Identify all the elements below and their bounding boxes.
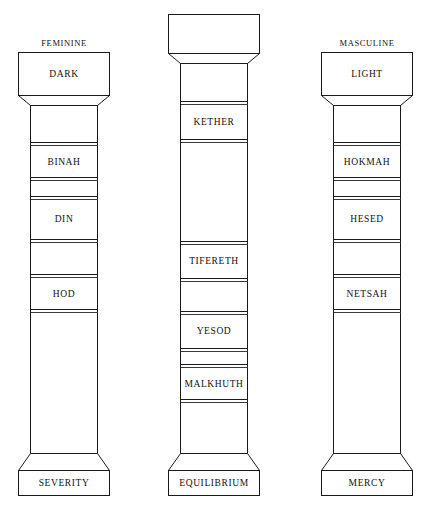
column-right-base-taper (322, 454, 413, 471)
column-left-band-1-label: DIN (55, 214, 74, 224)
column-right-band-0-label: HOKMAH (344, 157, 390, 167)
column-middle-capital-taper (169, 54, 260, 64)
column-right-capital-taper (322, 96, 413, 106)
column-middle-base-label: EQUILIBRIUM (179, 478, 248, 488)
column-middle-base-taper (169, 454, 260, 471)
column-left-header: FEMININE (41, 38, 86, 48)
column-left-capital-label: DARK (49, 69, 78, 79)
column-right: MASCULINE LIGHT HOKMAH HESED NETSAH MERC… (322, 38, 413, 496)
column-right-base-label: MERCY (349, 478, 386, 488)
column-left-base-label: SEVERITY (39, 478, 90, 488)
column-right-capital-label: LIGHT (351, 69, 383, 79)
column-middle: KETHER TIFERETH YESOD MALKHUTH EQUILIBRI… (169, 15, 260, 496)
column-left: FEMININE DARK BINAH DIN HOD SEVERITY (19, 38, 110, 496)
column-middle-band-2-label: YESOD (197, 326, 232, 336)
column-left-band-2-label: HOD (53, 289, 75, 299)
column-left-band-0-label: BINAH (47, 157, 80, 167)
column-middle-band-1-label: TIFERETH (189, 256, 239, 266)
column-left-capital-taper (19, 96, 110, 106)
column-right-band-2-label: NETSAH (346, 289, 387, 299)
pillars-svg: FEMININE DARK BINAH DIN HOD SEVERITY (0, 0, 429, 519)
column-middle-band-3-label: MALKHUTH (184, 379, 243, 389)
column-right-band-1-label: HESED (350, 214, 384, 224)
column-left-base-taper (19, 454, 110, 471)
column-middle-band-0-label: KETHER (193, 117, 234, 127)
column-middle-capital (169, 15, 260, 54)
pillars-diagram: FEMININE DARK BINAH DIN HOD SEVERITY (0, 0, 429, 519)
column-right-header: MASCULINE (340, 38, 395, 48)
